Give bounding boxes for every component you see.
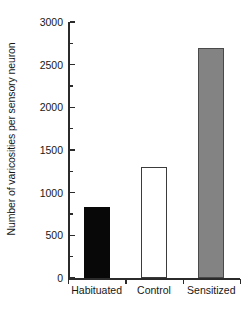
y-tick-major — [70, 235, 75, 236]
y-axis-title: Number of varicosities per sensory neuro… — [0, 0, 22, 278]
plot-area: 050010001500200025003000 HabituatedContr… — [68, 22, 240, 278]
x-category-label-sensitized: Sensitized — [187, 284, 235, 296]
y-tick-minor — [70, 85, 73, 86]
x-tick — [68, 279, 69, 284]
y-tick-major — [70, 149, 75, 150]
y-tick-major — [70, 277, 75, 278]
y-tick-label: 1000 — [40, 187, 63, 199]
bar-habituated[interactable] — [84, 207, 110, 278]
y-tick-major — [70, 21, 75, 22]
x-tick — [183, 279, 184, 284]
y-axis-title-text: Number of varicosities per sensory neuro… — [5, 42, 17, 235]
y-tick-major — [70, 64, 75, 65]
y-tick-label: 2000 — [40, 101, 63, 113]
y-tick-minor — [70, 171, 73, 172]
x-axis-line — [68, 278, 240, 280]
y-tick-label: 0 — [57, 272, 63, 284]
y-tick-label: 2500 — [40, 59, 63, 71]
bar-sensitized[interactable] — [198, 48, 224, 278]
y-tick-label: 3000 — [40, 16, 63, 28]
y-tick-major — [70, 107, 75, 108]
y-tick-minor — [70, 43, 73, 44]
x-tick — [240, 279, 241, 284]
y-tick-major — [70, 192, 75, 193]
y-tick-label: 1500 — [40, 144, 63, 156]
x-category-label-control: Control — [137, 284, 171, 296]
y-tick-minor — [70, 128, 73, 129]
bar-chart-figure: Number of varicosities per sensory neuro… — [0, 0, 250, 319]
x-category-label-habituated: Habituated — [71, 284, 122, 296]
x-tick — [125, 279, 126, 284]
y-tick-label: 500 — [45, 229, 63, 241]
bar-control[interactable] — [141, 167, 167, 278]
y-tick-minor — [70, 213, 73, 214]
y-tick-minor — [70, 256, 73, 257]
